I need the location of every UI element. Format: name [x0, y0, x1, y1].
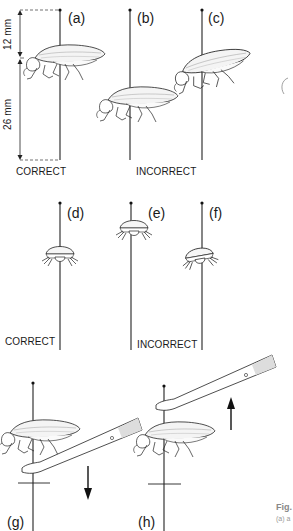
dimension-label-26mm: 26 mm [2, 90, 14, 130]
panel-label-e: (e) [148, 205, 165, 221]
caption-correct-row2: CORRECT [5, 336, 55, 347]
beetle-h [134, 422, 215, 457]
beetle-a [24, 45, 105, 80]
pinning-diagram [0, 0, 293, 531]
panel-label-f: (f) [209, 205, 222, 221]
figure-caption-title: Fig. [276, 502, 292, 512]
beetle-b [97, 87, 178, 122]
figure-caption-text: (a) a [276, 515, 290, 522]
caption-incorrect-row1: INCORRECT [136, 166, 196, 177]
beetle-f [180, 245, 219, 270]
caption-correct-row1: CORRECT [16, 166, 66, 177]
panel-label-b: (b) [137, 10, 154, 26]
panel-label-a: (a) [68, 10, 85, 26]
panel-label-g: (g) [7, 514, 24, 530]
cutoff-drawing-fragment [282, 78, 288, 94]
tweezer-h [156, 355, 276, 410]
panel-label-h: (h) [138, 514, 155, 530]
dimension-label-12mm: 12 mm [2, 20, 14, 50]
panel-label-c: (c) [208, 10, 224, 26]
beetle-c [169, 44, 256, 95]
caption-incorrect-row2: INCORRECT [137, 339, 197, 350]
panel-label-d: (d) [67, 205, 84, 221]
beetle-e [116, 221, 152, 241]
